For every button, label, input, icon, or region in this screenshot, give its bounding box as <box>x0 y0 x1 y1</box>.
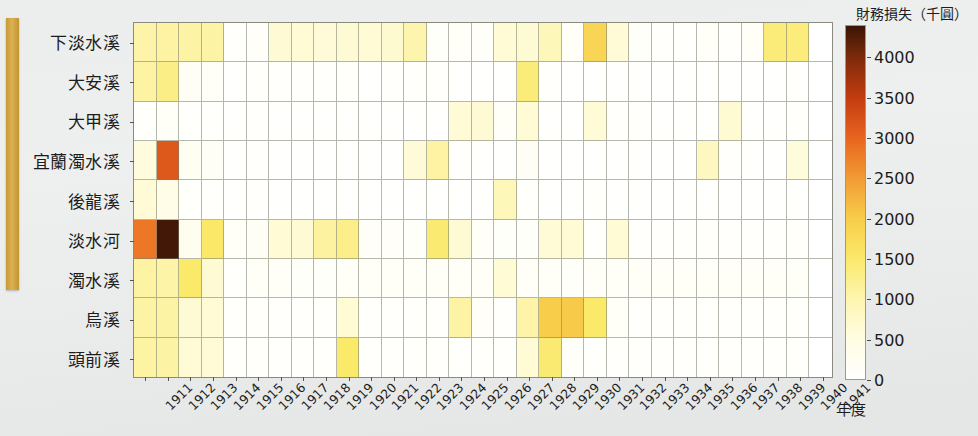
heatmap-cell <box>809 141 832 180</box>
heatmap-cell <box>719 220 742 259</box>
heatmap-cell <box>449 298 472 337</box>
heatmap-cell <box>247 220 270 259</box>
heatmap-cell <box>697 102 720 141</box>
heatmap-cell <box>337 141 360 180</box>
heatmap-cell <box>179 62 202 101</box>
colorbar-tick <box>867 178 871 179</box>
heatmap-cell <box>359 220 382 259</box>
heatmap-cell <box>157 180 180 219</box>
heatmap-cell <box>719 298 742 337</box>
y-axis-tick-label: 烏溪 <box>0 299 128 339</box>
colorbar-tick-label: 500 <box>874 330 905 349</box>
heatmap-cell <box>292 259 315 298</box>
heatmap-cell <box>202 62 225 101</box>
heatmap-cell <box>157 62 180 101</box>
y-axis-tick-label: 頭前溪 <box>0 339 128 379</box>
heatmap-cell <box>652 62 675 101</box>
heatmap-cell <box>719 259 742 298</box>
heatmap-cell <box>517 298 540 337</box>
heatmap-cell <box>652 102 675 141</box>
heatmap-cell <box>652 338 675 377</box>
heatmap-cell <box>179 141 202 180</box>
heatmap-cell <box>247 62 270 101</box>
heatmap-cell <box>697 298 720 337</box>
heatmap-cell <box>809 102 832 141</box>
heatmap-cell <box>202 23 225 62</box>
heatmap-cell <box>674 23 697 62</box>
heatmap-cell <box>562 62 585 101</box>
heatmap-cell <box>269 62 292 101</box>
y-axis-tick-label: 宜蘭濁水溪 <box>0 141 128 181</box>
heatmap-cell <box>404 141 427 180</box>
heatmap-cell <box>697 220 720 259</box>
heatmap-cell <box>742 180 765 219</box>
heatmap-cell <box>562 23 585 62</box>
heatmap-cell <box>157 338 180 377</box>
y-axis-tick <box>130 359 134 360</box>
heatmap-cell <box>562 298 585 337</box>
y-axis-tick <box>130 82 134 83</box>
heatmap-cell <box>314 298 337 337</box>
y-axis-tick-label: 大安溪 <box>0 62 128 102</box>
colorbar-tick-label: 0 <box>874 371 884 390</box>
heatmap-cell <box>314 62 337 101</box>
heatmap-cell <box>269 338 292 377</box>
heatmap-cell <box>427 338 450 377</box>
heatmap-cell <box>157 298 180 337</box>
heatmap-cell <box>472 141 495 180</box>
heatmap-cell <box>382 62 405 101</box>
heatmap-cell <box>337 180 360 219</box>
y-axis-tick <box>130 201 134 202</box>
heatmap-cell <box>764 180 787 219</box>
heatmap-cell <box>517 62 540 101</box>
heatmap-cell <box>179 102 202 141</box>
heatmap-cell <box>607 298 630 337</box>
heatmap-cell <box>697 259 720 298</box>
heatmap-cell <box>157 23 180 62</box>
heatmap-cell <box>202 298 225 337</box>
heatmap-cell <box>404 298 427 337</box>
heatmap-cell <box>674 180 697 219</box>
heatmap-cell <box>269 23 292 62</box>
heatmap-cell <box>134 102 157 141</box>
heatmap-cell <box>742 298 765 337</box>
heatmap-cell <box>449 220 472 259</box>
heatmap-cell <box>292 180 315 219</box>
heatmap-cell <box>539 102 562 141</box>
heatmap-cell <box>247 259 270 298</box>
heatmap-cell <box>674 62 697 101</box>
colorbar-gradient <box>845 25 866 380</box>
heatmap-cell <box>787 338 810 377</box>
heatmap-cell <box>134 298 157 337</box>
heatmap-cell <box>629 338 652 377</box>
heatmap-cell <box>292 338 315 377</box>
heatmap-cell <box>359 180 382 219</box>
heatmap-cell <box>539 180 562 219</box>
heatmap-cell <box>584 102 607 141</box>
heatmap-cell <box>269 220 292 259</box>
heatmap-cell <box>472 338 495 377</box>
heatmap-cell <box>292 62 315 101</box>
heatmap-cell <box>652 220 675 259</box>
heatmap-cell <box>809 220 832 259</box>
heatmap-cell <box>269 298 292 337</box>
heatmap-cell <box>337 220 360 259</box>
colorbar-tick <box>867 219 871 220</box>
heatmap-cell <box>314 141 337 180</box>
heatmap-cell <box>337 62 360 101</box>
heatmap-cell <box>427 298 450 337</box>
heatmap-cell <box>292 220 315 259</box>
heatmap-cell <box>809 62 832 101</box>
heatmap-cell <box>764 259 787 298</box>
heatmap-cell <box>787 259 810 298</box>
heatmap-cell <box>584 220 607 259</box>
heatmap-cell <box>742 259 765 298</box>
colorbar-tick <box>867 57 871 58</box>
colorbar: 05001000150020002500300035004000 <box>845 25 975 380</box>
heatmap-cell <box>224 298 247 337</box>
heatmap-cell <box>224 180 247 219</box>
colorbar-tick <box>867 380 871 381</box>
heatmap-cell <box>674 259 697 298</box>
y-axis-tick <box>130 43 134 44</box>
colorbar-tick-label: 1500 <box>874 249 915 268</box>
